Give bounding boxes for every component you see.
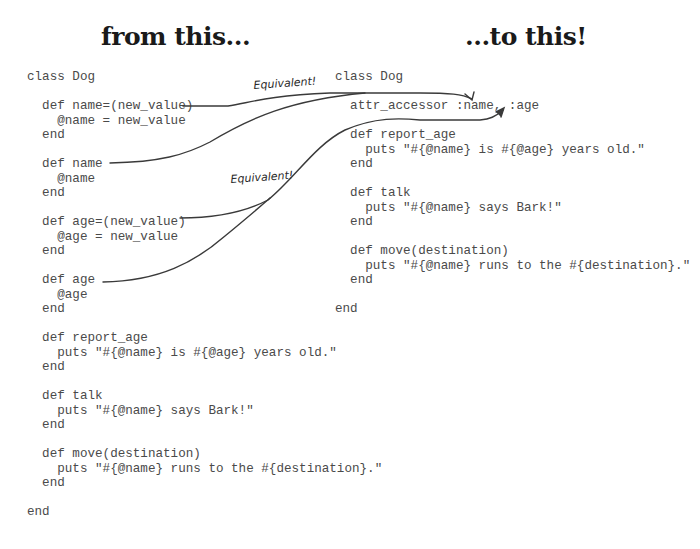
arrow-head-age bbox=[496, 108, 504, 117]
arrow-head-name bbox=[465, 92, 474, 100]
arrow-age-getter bbox=[103, 198, 270, 282]
arrow-name-setter bbox=[183, 93, 472, 106]
equivalence-arrows bbox=[0, 0, 700, 549]
arrow-name-getter bbox=[110, 93, 365, 163]
arrow-age-setter bbox=[180, 110, 503, 218]
